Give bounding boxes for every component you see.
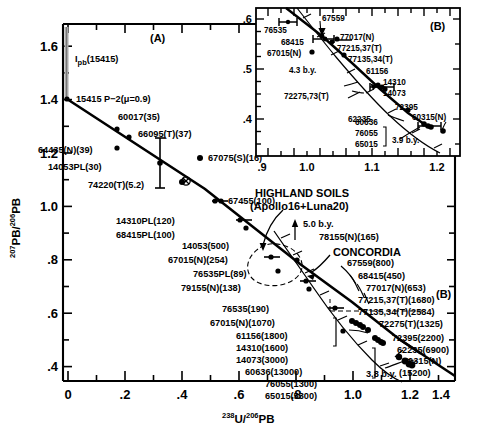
- annotation-5-0-by: 5.0 b.y.: [303, 219, 333, 229]
- label-76535pl: 76535PL(89): [193, 269, 247, 279]
- label-78155: 78155(N)(165): [319, 232, 379, 242]
- label-67015-254: 67015(N)(254): [168, 255, 228, 265]
- inset-label-3-9-by: 3.9 b.y.: [392, 136, 419, 145]
- svg-text:.4: .4: [243, 113, 253, 125]
- label-14073-3000: 14073(3000): [236, 355, 288, 365]
- label-68415-450: 68415(450): [358, 271, 405, 281]
- svg-text:1.0: 1.0: [40, 199, 58, 214]
- inset-x-ticklabels: .9 1.0 1.1 1.2: [257, 161, 444, 173]
- label-60315-n: 60315(N): [403, 356, 441, 366]
- inset-label-76055: 76055: [355, 129, 378, 138]
- figure-root: .4 .6 .8 1.0 1.2 1.4 1.6 0 .2 .4 .6 .8 1…: [0, 0, 480, 439]
- svg-text:.2: .2: [120, 387, 131, 402]
- inset-label-67559: 67559: [322, 14, 345, 23]
- label-76535-190: 76535(190): [222, 304, 269, 314]
- label-77135-2584: 77135,34(T)(2584): [358, 307, 435, 317]
- svg-text:1.1: 1.1: [364, 161, 379, 173]
- panel-b-label-inset: (B): [430, 20, 446, 32]
- x-axis-title: 238U/206PB: [222, 411, 275, 425]
- label-15415: 15415 P−2(μ=0.9): [76, 94, 151, 104]
- label-60017: 60017(35): [118, 112, 160, 122]
- label-72275-1325: 72275(T)(1325): [379, 319, 443, 329]
- inset-label-72275: 72275,73(T): [284, 92, 329, 101]
- panel-b-label-main: (B): [436, 288, 452, 300]
- isochron-diagram: .4 .6 .8 1.0 1.2 1.4 1.6 0 .2 .4 .6 .8 1…: [0, 0, 480, 439]
- inset-label-67015: 67015(N): [267, 49, 301, 58]
- label-68415pl: 68415PL(100): [116, 230, 175, 240]
- label-72395-2200: 72395(2200): [392, 333, 444, 343]
- highland-soils-outline: [248, 244, 302, 286]
- svg-text:1.6: 1.6: [40, 39, 58, 54]
- inset-panel: .6 .5 .4 .9 1.0 1.1 1.2 (B): [243, 8, 460, 173]
- svg-text:.8: .8: [47, 252, 58, 267]
- svg-text:207PB/206PB: 207PB/206PB: [8, 198, 22, 258]
- main-x-ticklabels: 0 .2 .4 .6 .8 1.0 1.2 1.4: [64, 387, 450, 402]
- label-74220: 74220(T)(5.2): [88, 180, 144, 190]
- annotation-concordia: CONCORDIA: [333, 246, 401, 258]
- inset-label-77135: 77135,34(T): [348, 55, 393, 64]
- label-65015-5300: 65015(5300): [265, 391, 317, 401]
- svg-text:1.0: 1.0: [299, 161, 314, 173]
- label-61156-1800: 61156(1800): [236, 331, 288, 341]
- annotation-highland-soils-sub: (Apollo16+Luna20): [250, 200, 349, 212]
- main-right-ticks: [447, 206, 455, 366]
- annotation-highland-soils: HIGHLAND SOILS: [255, 187, 349, 199]
- inset-label-14310: 14310: [383, 78, 406, 87]
- svg-text:0: 0: [64, 387, 71, 402]
- main-y-ticklabels: .4 .6 .8 1.0 1.2 1.4 1.6: [40, 39, 59, 374]
- annotation-3-8-by: 3.8 b.y.: [366, 369, 396, 379]
- svg-text:1.4: 1.4: [40, 92, 59, 107]
- label-14310-1600: 14310(1600): [236, 343, 288, 353]
- y-axis-title: 207PB/206PB: [8, 198, 22, 258]
- svg-text:1.2: 1.2: [429, 161, 444, 173]
- label-77215-1680: 77215,37(T)(1680): [358, 295, 435, 305]
- inset-label-68415: 68415: [281, 38, 304, 47]
- svg-text:.4: .4: [47, 359, 59, 374]
- by50-leader: [292, 219, 298, 240]
- label-67559-800: 67559(800): [347, 258, 394, 268]
- label-76055-1300: 76055(1300): [265, 379, 317, 389]
- label-14310pl: 14310PL(120): [116, 216, 175, 226]
- label-79155: 79155(N)(138): [181, 283, 241, 293]
- label-64435: 64435(N)(39): [38, 145, 93, 155]
- label-60636-13000: 60636(13000): [245, 367, 302, 377]
- inset-y-ticklabels: .6 .5 .4: [243, 13, 253, 125]
- ipb-error-bar: [65, 27, 69, 99]
- inset-label-65015: 65015: [355, 140, 378, 149]
- svg-text:.9: .9: [257, 161, 266, 173]
- panel-a-label: (A): [150, 32, 166, 44]
- svg-text:.5: .5: [243, 63, 252, 75]
- label-77017-653: 77017(N)(653): [366, 283, 426, 293]
- inset-label-60315: 60315(N): [412, 113, 446, 122]
- inset-label-4-3-by: 4.3 b.y.: [289, 66, 316, 75]
- inset-label-77215: 77215,37(T): [337, 44, 382, 53]
- inset-label-60636: 60636: [355, 118, 378, 127]
- inset-label-77017: 77017(N): [340, 33, 374, 42]
- svg-text:.6: .6: [47, 306, 58, 321]
- svg-text:.4: .4: [177, 387, 189, 402]
- label-67015-1070: 67015(N)(1070): [210, 318, 275, 328]
- svg-text:238U/206PB: 238U/206PB: [222, 411, 275, 425]
- label-60315-val: (15200): [399, 368, 431, 378]
- label-67075: 67075(S)(16): [208, 153, 262, 163]
- inset-label-61156: 61156: [366, 67, 389, 76]
- inset-label-76535: 76535: [264, 26, 287, 35]
- svg-text:1.0: 1.0: [344, 387, 362, 402]
- svg-text:.6: .6: [234, 387, 245, 402]
- label-62235-6900: 62235(6900): [397, 345, 449, 355]
- label-ipb: Ipb(15415): [75, 54, 118, 67]
- label-66095: 66095(T)(37): [138, 129, 192, 139]
- label-14053: 14053(500): [182, 241, 229, 251]
- inset-label-72395: 72395: [395, 103, 418, 112]
- label-14053pl: 14053PL(30): [48, 162, 102, 172]
- svg-text:1.2: 1.2: [401, 387, 419, 402]
- svg-text:.6: .6: [243, 13, 252, 25]
- inset-label-14073: 14073: [383, 89, 406, 98]
- svg-text:1.4: 1.4: [432, 387, 451, 402]
